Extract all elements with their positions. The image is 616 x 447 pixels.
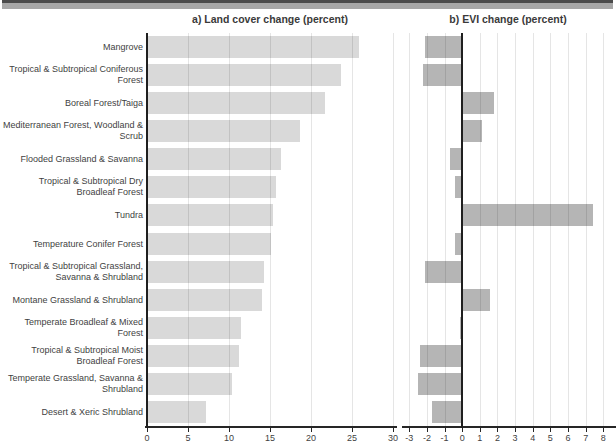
category-label: Temperate Broadleaf & Mixed Forest	[1, 317, 143, 339]
figure: a) Land cover change (percent) b) EVI ch…	[0, 0, 616, 447]
gridline	[550, 33, 551, 426]
gridline	[270, 33, 271, 426]
gridline	[497, 33, 498, 426]
gridline	[533, 33, 534, 426]
category-label: Tropical & Subtropical Coniferous Forest	[1, 64, 143, 86]
axis-tick	[445, 428, 446, 432]
category-label: Temperate Grassland, Savanna & Shrubland	[1, 373, 143, 395]
zero-line	[461, 33, 463, 428]
category-label: Montane Grassland & Shrubland	[1, 294, 143, 305]
axis-tick-label: 25	[347, 433, 357, 443]
x-axis-line	[145, 426, 397, 428]
axis-tick	[352, 428, 353, 432]
bar	[147, 373, 232, 395]
axis-tick-label: 7	[583, 433, 588, 443]
gridline	[427, 33, 428, 426]
axis-tick-label: 1	[477, 433, 482, 443]
axis-tick	[393, 428, 394, 432]
gridline	[311, 33, 312, 426]
window-top-strip	[2, 0, 613, 9]
axis-tick	[147, 428, 148, 432]
bar	[147, 261, 264, 283]
gridline	[603, 33, 604, 426]
axis-tick-label: 8	[601, 433, 606, 443]
axis-tick	[550, 428, 551, 432]
axis-tick-label: 3	[513, 433, 518, 443]
gridline	[393, 33, 394, 426]
axis-tick	[497, 428, 498, 432]
axis-tick	[603, 428, 604, 432]
bar	[147, 289, 262, 311]
axis-tick-label: 10	[224, 433, 234, 443]
gridline	[445, 33, 446, 426]
axis-tick-label: 0	[460, 433, 465, 443]
bar	[147, 233, 271, 255]
bar	[147, 36, 359, 58]
bar	[147, 92, 325, 114]
axis-tick	[515, 428, 516, 432]
bar	[147, 64, 341, 86]
axis-tick-label: 6	[566, 433, 571, 443]
axis-tick	[409, 428, 410, 432]
bar	[432, 401, 462, 423]
category-label: Mangrove	[1, 42, 143, 53]
axis-tick	[462, 428, 463, 432]
axis-tick-label: 5	[185, 433, 190, 443]
bar	[147, 401, 206, 423]
bar	[147, 176, 276, 198]
bar	[462, 92, 494, 114]
gridline	[352, 33, 353, 426]
bar	[147, 345, 239, 367]
axis-tick-label: -1	[441, 433, 449, 443]
axis-tick-label: 4	[530, 433, 535, 443]
axis-tick	[568, 428, 569, 432]
axis-tick	[229, 428, 230, 432]
category-label: Boreal Forest/Taiga	[1, 98, 143, 109]
axis-tick-label: 5	[548, 433, 553, 443]
axis-tick	[586, 428, 587, 432]
axis-tick-label: -3	[405, 433, 413, 443]
x-axis-line	[402, 426, 616, 428]
category-label: Tropical & Subtropical Dry Broadleaf For…	[1, 176, 143, 198]
axis-tick-label: 0	[144, 433, 149, 443]
bar	[147, 204, 273, 226]
category-label: Tropical & Subtropical Moist Broadleaf F…	[1, 345, 143, 367]
category-label: Mediterranean Forest, Woodland & Scrub	[1, 120, 143, 142]
bar	[147, 148, 281, 170]
bar	[147, 120, 300, 142]
category-label: Tundra	[1, 210, 143, 221]
axis-tick	[311, 428, 312, 432]
axis-tick	[427, 428, 428, 432]
axis-tick	[480, 428, 481, 432]
gridline	[586, 33, 587, 426]
zero-line	[146, 33, 148, 428]
gridline	[515, 33, 516, 426]
category-label: Temperature Conifer Forest	[1, 238, 143, 249]
axis-tick-label: 30	[388, 433, 398, 443]
axis-tick-label: 15	[265, 433, 275, 443]
panel-b-title: b) EVI change (percent)	[449, 13, 566, 27]
gridline	[409, 33, 410, 426]
bar	[147, 317, 241, 339]
category-label: Flooded Grassland & Savanna	[1, 154, 143, 165]
bar	[462, 289, 490, 311]
bar	[418, 373, 462, 395]
bar	[462, 120, 481, 142]
category-label: Desert & Xeric Shrubland	[1, 406, 143, 417]
panel-a-title: a) Land cover change (percent)	[192, 13, 348, 27]
category-label: Tropical & Subtropical Grassland, Savann…	[1, 261, 143, 283]
gridline	[480, 33, 481, 426]
axis-tick	[533, 428, 534, 432]
bar	[423, 64, 462, 86]
gridline	[229, 33, 230, 426]
axis-tick-label: 20	[306, 433, 316, 443]
bar	[462, 204, 593, 226]
gridline	[188, 33, 189, 426]
axis-tick-label: 2	[495, 433, 500, 443]
gridline	[568, 33, 569, 426]
axis-tick	[188, 428, 189, 432]
axis-tick-label: -2	[423, 433, 431, 443]
axis-tick	[270, 428, 271, 432]
